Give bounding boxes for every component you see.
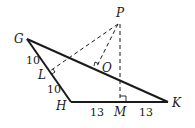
label-K: K <box>171 96 182 110</box>
length-LH: 10 <box>47 83 61 96</box>
label-G: G <box>14 32 24 46</box>
dashed-PO <box>97 24 118 66</box>
label-O: O <box>102 61 112 75</box>
label-P: P <box>115 6 125 20</box>
label-H: H <box>55 99 67 113</box>
length-HM: 13 <box>90 106 104 119</box>
label-M: M <box>113 105 127 119</box>
label-L: L <box>37 68 46 82</box>
geometry-diagram: P G O L H M K 10 10 13 13 <box>0 0 195 128</box>
length-GL: 10 <box>26 54 40 67</box>
length-MK: 13 <box>139 106 153 119</box>
